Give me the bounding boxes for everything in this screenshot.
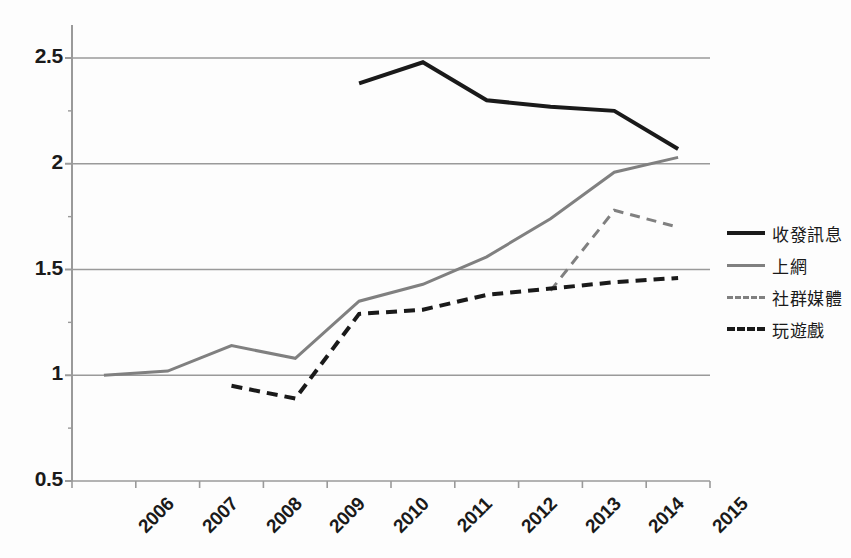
legend-item[interactable]: 收發訊息 (727, 222, 842, 244)
y-axis-tick-label: 2.5 (5, 44, 63, 68)
series-line-1 (359, 62, 678, 149)
legend-label: 收發訊息 (772, 221, 842, 246)
series-line-4 (232, 278, 679, 399)
y-axis-tick-label: 1.5 (5, 256, 63, 280)
legend-swatch-1 (727, 231, 765, 235)
legend-swatch-2 (727, 264, 765, 267)
line-chart: 2.521.510.5 2006200720082009201020112012… (0, 0, 851, 558)
y-axis-tick-label: 1 (5, 361, 63, 385)
chart-plot-area (0, 0, 851, 558)
legend-label: 玩遊戲 (772, 317, 825, 342)
y-axis-tick-label: 2 (5, 150, 63, 174)
legend-label: 上網 (772, 253, 807, 278)
series-line-2 (104, 157, 678, 375)
legend-label: 社群媒體 (772, 285, 842, 310)
y-axis-tick-label: 0.5 (5, 467, 63, 491)
legend-item[interactable]: 玩遊戲 (727, 318, 825, 340)
legend-item[interactable]: 上網 (727, 254, 807, 276)
legend-swatch-4 (727, 327, 765, 331)
legend-item[interactable]: 社群媒體 (727, 286, 842, 308)
legend-swatch-3 (727, 296, 765, 299)
